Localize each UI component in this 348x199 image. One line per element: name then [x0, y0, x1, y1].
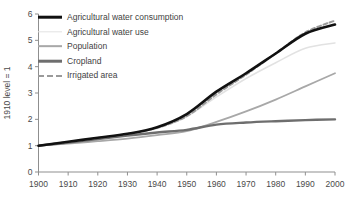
legend-label-population: Population [67, 42, 107, 51]
chart-container: 0123456 19001910192019301940195019601970… [0, 0, 348, 199]
legend-label-irrigated: Irrigated area [67, 71, 118, 80]
y-tick-label: 0 [28, 167, 33, 177]
legend-item-consumption[interactable]: Agricultural water consumption [38, 10, 228, 25]
x-tick-label: 1920 [88, 179, 107, 189]
x-axis-ticks: 1900191019201930194019501960197019801990… [29, 172, 345, 189]
y-tick-label: 2 [28, 114, 33, 124]
legend-item-irrigated[interactable]: Irrigated area [38, 68, 228, 83]
legend-swatch-population-icon [38, 41, 62, 51]
legend-swatch-use-icon [38, 27, 62, 37]
legend-item-use[interactable]: Agricultural water use [38, 25, 228, 40]
series-line-population [39, 73, 336, 145]
y-axis-title: 1910 level = 1 [2, 66, 12, 119]
legend-swatch-cropland-icon [38, 56, 62, 66]
legend-swatch-irrigated-icon [38, 71, 62, 81]
series-line-cropland [39, 119, 336, 145]
y-tick-label: 6 [28, 9, 33, 19]
y-tick-label: 5 [28, 35, 33, 45]
x-tick-label: 2000 [326, 179, 345, 189]
y-axis-ticks: 0123456 [28, 9, 39, 177]
x-tick-label: 1950 [177, 179, 196, 189]
legend-item-population[interactable]: Population [38, 39, 228, 54]
x-tick-label: 1900 [29, 179, 48, 189]
y-tick-label: 3 [28, 88, 33, 98]
legend-swatch-consumption-icon [38, 12, 62, 22]
x-tick-label: 1970 [237, 179, 256, 189]
x-tick-label: 1910 [59, 179, 78, 189]
legend-label-consumption: Agricultural water consumption [67, 13, 183, 22]
chart-legend: Agricultural water consumption Agricultu… [38, 10, 228, 83]
x-tick-label: 1940 [148, 179, 167, 189]
legend-label-cropland: Cropland [67, 57, 102, 66]
legend-label-use: Agricultural water use [67, 28, 149, 37]
y-tick-label: 4 [28, 62, 33, 72]
legend-item-cropland[interactable]: Cropland [38, 54, 228, 69]
x-tick-label: 1980 [266, 179, 285, 189]
x-tick-label: 1960 [207, 179, 226, 189]
y-tick-label: 1 [28, 141, 33, 151]
x-tick-label: 1990 [296, 179, 315, 189]
x-tick-label: 1930 [118, 179, 137, 189]
